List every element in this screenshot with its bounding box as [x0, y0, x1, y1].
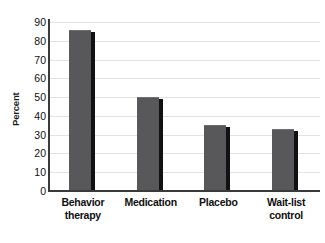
bar-shadow: [294, 131, 298, 191]
bar-chart: Percent 0102030405060708090 Behaviorther…: [0, 0, 325, 243]
category-label-line: Wait-list: [243, 196, 325, 209]
bar: [272, 129, 294, 191]
bar-group: [128, 22, 174, 191]
y-axis-title: Percent: [9, 78, 23, 140]
category-label-line: control: [243, 209, 325, 222]
y-axis-tick-label: 10: [24, 167, 46, 177]
bar-group: [195, 22, 241, 191]
y-axis-tick-label: 90: [24, 17, 46, 27]
x-axis-line: [48, 190, 320, 192]
x-axis-category-label: Wait-listcontrol: [243, 196, 325, 222]
bar-shadow: [91, 32, 95, 191]
category-label-line: therapy: [40, 209, 126, 222]
y-axis-tick-label: 50: [24, 92, 46, 102]
bar: [204, 125, 226, 191]
bar-group: [263, 22, 309, 191]
y-axis-tick-label: 20: [24, 148, 46, 158]
y-axis-tick-label: 70: [24, 55, 46, 65]
bar-top-edge: [69, 30, 91, 31]
y-axis-tick-label: 80: [24, 36, 46, 46]
bar-top-edge: [137, 97, 159, 98]
y-axis-tick-label: 60: [24, 73, 46, 83]
y-axis-tick-label: 0: [24, 186, 46, 196]
bar: [137, 97, 159, 191]
bar-shadow: [159, 99, 163, 191]
bar-group: [60, 22, 106, 191]
bar-top-edge: [272, 129, 294, 130]
plot-area: [49, 22, 320, 191]
bar: [69, 30, 91, 191]
bar-shadow: [226, 127, 230, 191]
x-axis-category-labels: BehaviortherapyMedicationPlaceboWait-lis…: [49, 196, 320, 242]
y-axis-tick-label: 30: [24, 130, 46, 140]
y-axis-line: [48, 19, 50, 192]
bar-top-edge: [204, 125, 226, 126]
y-axis-tick-label: 40: [24, 111, 46, 121]
